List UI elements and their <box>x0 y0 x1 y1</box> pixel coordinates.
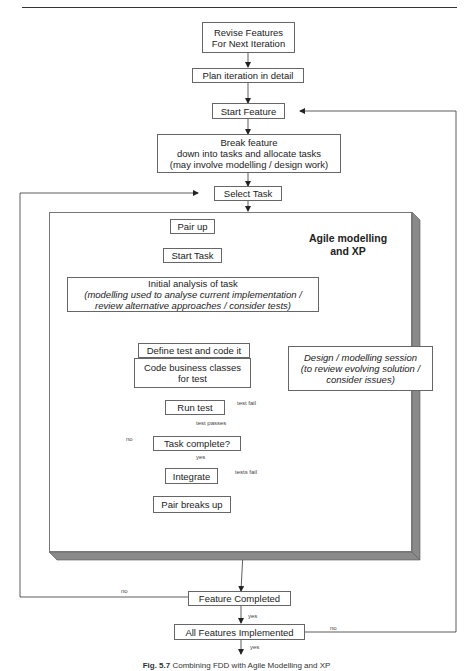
node-text: All Features Implemented <box>185 627 293 638</box>
node-start-task: Start Task <box>163 248 222 263</box>
node-select-task: Select Task <box>214 186 282 201</box>
node-text: Plan iteration in detail <box>203 70 294 81</box>
edge-label-feature-yes: yes <box>248 613 257 619</box>
figure-caption: Fig. 5.7 Combining FDD with Agile Modell… <box>0 661 473 670</box>
node-plan-iteration: Plan iteration in detail <box>192 68 304 83</box>
node-text: Code business classes <box>144 362 241 373</box>
node-text: (to review evolving solution / <box>301 363 420 374</box>
node-initial-analysis: Initial analysis of task (modelling used… <box>67 277 319 312</box>
node-run-test: Run test <box>165 400 225 415</box>
edge-label-test-passes: test passes <box>196 420 226 426</box>
node-text: review alternative approaches / consider… <box>95 300 291 311</box>
node-text: Pair breaks up <box>161 499 222 510</box>
edge-label-task-yes: yes <box>196 454 205 460</box>
node-all-features: All Features Implemented <box>174 624 305 640</box>
node-text: Integrate <box>173 471 211 482</box>
node-revise-features: Revise Features For Next Iteration <box>202 22 295 53</box>
region-title-line1: Agile modelling <box>303 232 393 245</box>
node-text: Start Feature <box>221 106 276 117</box>
node-integrate: Integrate <box>165 468 218 484</box>
node-text: Initial analysis of task <box>148 278 238 289</box>
region-title-line2: and XP <box>303 245 393 258</box>
node-text: consider issues) <box>326 374 395 385</box>
node-text: Task complete? <box>164 438 230 449</box>
edge-label-task-no: no <box>126 436 133 442</box>
node-text: Define test and code it <box>147 345 242 356</box>
node-text: For Next Iteration <box>212 38 285 49</box>
node-text: Design / modelling session <box>304 352 417 363</box>
node-text: Run test <box>177 402 212 413</box>
node-define-test: Define test and code it <box>138 343 250 358</box>
node-text: Pair up <box>177 221 207 232</box>
edge-label-feature-no: no <box>121 588 128 594</box>
node-text: Select Task <box>224 188 272 199</box>
region-title: Agile modelling and XP <box>303 232 393 258</box>
node-break-feature: Break feature down into tasks and alloca… <box>157 134 341 173</box>
node-pair-breaks-up: Pair breaks up <box>153 496 231 513</box>
edge-label-all-no: no <box>330 625 337 631</box>
node-code-business: Code business classes for test <box>134 358 251 388</box>
node-text: Feature Completed <box>199 593 280 604</box>
edge-label-all-yes: yes <box>250 644 259 650</box>
node-text: Start Task <box>171 250 213 261</box>
caption-text: Combining FDD with Agile Modelling and X… <box>172 661 330 670</box>
node-text: down into tasks and allocate tasks <box>177 148 321 159</box>
node-text: (may involve modelling / design work) <box>170 159 328 170</box>
edge-label-tests-fail: tests fail <box>235 469 257 475</box>
edge-label-test-fail: test fail <box>237 400 256 406</box>
node-text: Break feature <box>220 137 277 148</box>
node-task-complete: Task complete? <box>153 436 241 451</box>
node-pair-up: Pair up <box>170 219 215 234</box>
caption-prefix: Fig. 5.7 <box>143 661 171 670</box>
node-start-feature: Start Feature <box>212 103 285 119</box>
node-design-session: Design / modelling session (to review ev… <box>288 346 433 391</box>
node-feature-completed: Feature Completed <box>188 591 291 606</box>
node-text: Revise Features <box>214 27 283 38</box>
node-text: for test <box>178 373 207 384</box>
node-text: (modelling used to analyse current imple… <box>84 289 302 300</box>
